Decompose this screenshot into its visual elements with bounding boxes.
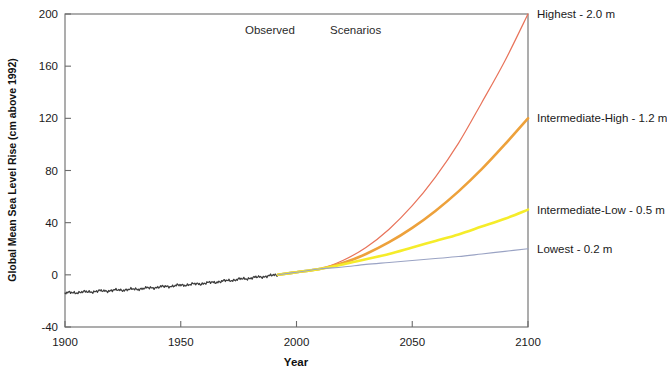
series-label-intermediate-low: Intermediate-Low - 0.5 m xyxy=(537,204,665,216)
y-tick-label: 40 xyxy=(45,217,58,229)
x-tick-label: 2100 xyxy=(515,336,541,348)
sea-level-rise-chart: 20016012080400-40 19001950200020502100 H… xyxy=(0,0,667,374)
x-axis-ticks: 19001950200020502100 xyxy=(52,321,541,348)
y-tick-label: 80 xyxy=(45,165,58,177)
annotation-observed: Observed xyxy=(245,24,295,36)
y-tick-label: 200 xyxy=(39,8,58,20)
series-label-lowest: Lowest - 0.2 m xyxy=(537,243,612,255)
y-axis-ticks: 20016012080400-40 xyxy=(39,8,71,333)
x-tick-label: 1900 xyxy=(52,336,78,348)
series-intermediate-low xyxy=(278,210,528,275)
series-label-highest: Highest - 2.0 m xyxy=(537,8,615,20)
y-axis-title: Global Mean Sea Level Rise (cm above 199… xyxy=(6,58,18,282)
series-observed xyxy=(65,274,278,294)
series-layer xyxy=(65,14,528,294)
chart-canvas: 20016012080400-40 19001950200020502100 H… xyxy=(0,0,667,374)
y-tick-label: 0 xyxy=(52,269,58,281)
y-tick-label: -40 xyxy=(41,321,58,333)
series-label-layer: Highest - 2.0 mIntermediate-High - 1.2 m… xyxy=(537,8,667,255)
x-tick-label: 2000 xyxy=(284,336,310,348)
y-tick-label: 120 xyxy=(39,112,58,124)
x-tick-label: 2050 xyxy=(399,336,425,348)
annotation-scenarios: Scenarios xyxy=(330,24,381,36)
series-highest xyxy=(278,14,528,275)
y-tick-label: 160 xyxy=(39,60,58,72)
x-axis-title: Year xyxy=(284,356,309,368)
plot-area-border xyxy=(65,14,528,327)
series-label-intermediate-high: Intermediate-High - 1.2 m xyxy=(537,112,667,124)
x-tick-label: 1950 xyxy=(168,336,194,348)
